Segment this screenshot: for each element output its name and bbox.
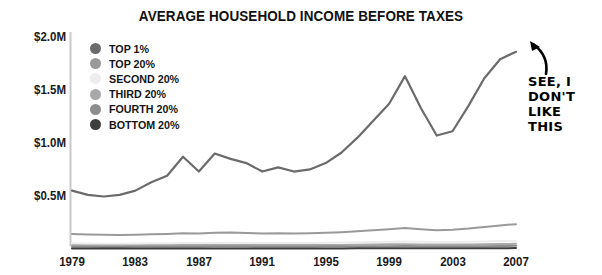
x-axis-tick-label: 1999 (362, 255, 417, 269)
legend-color-dot-icon (90, 73, 101, 84)
legend-color-dot-icon (90, 104, 101, 115)
x-axis-tick-label: 2003 (425, 255, 480, 269)
x-axis-tick-label: 1995 (298, 255, 353, 269)
series-line (72, 246, 516, 247)
legend-item[interactable]: BOTTOM 20% (90, 117, 185, 132)
chart-container: AVERAGE HOUSEHOLD INCOME BEFORE TAXES $2… (0, 0, 602, 275)
x-axis-tick-label: 1987 (171, 255, 226, 269)
annotation-line-3: LIKE (528, 104, 575, 119)
legend-item[interactable]: TOP 1% (90, 41, 185, 56)
legend-item[interactable]: THIRD 20% (90, 87, 185, 102)
annotation-line-1: SEE, I (528, 74, 575, 89)
legend-item[interactable]: SECOND 20% (90, 71, 185, 86)
legend-item-label: FOURTH 20% (109, 103, 178, 115)
legend-color-dot-icon (90, 89, 101, 100)
annotation-line-2: DON'T (528, 89, 575, 104)
legend-color-dot-icon (90, 119, 101, 130)
annotation-line-4: THIS (528, 119, 575, 134)
series-line (72, 224, 516, 235)
legend-item[interactable]: TOP 20% (90, 56, 185, 71)
series-line (72, 241, 516, 244)
legend-item-label: TOP 1% (109, 43, 149, 55)
x-axis-tick-label: 1991 (235, 255, 290, 269)
annotation-arrow-icon (520, 36, 560, 78)
x-axis-tick-label: 1983 (108, 255, 163, 269)
x-axis-tick-label: 1979 (44, 255, 99, 269)
chart-legend: TOP 1%TOP 20%SECOND 20%THIRD 20%FOURTH 2… (90, 41, 185, 132)
legend-color-dot-icon (90, 58, 101, 69)
legend-item[interactable]: FOURTH 20% (90, 102, 185, 117)
legend-item-label: TOP 20% (109, 58, 155, 70)
legend-item-label: THIRD 20% (109, 88, 166, 100)
legend-item-label: BOTTOM 20% (109, 119, 180, 131)
x-axis-tick-label: 2007 (488, 255, 543, 269)
annotation-text: SEE, I DON'T LIKE THIS (528, 74, 575, 134)
legend-item-label: SECOND 20% (109, 73, 179, 85)
legend-color-dot-icon (90, 43, 101, 54)
